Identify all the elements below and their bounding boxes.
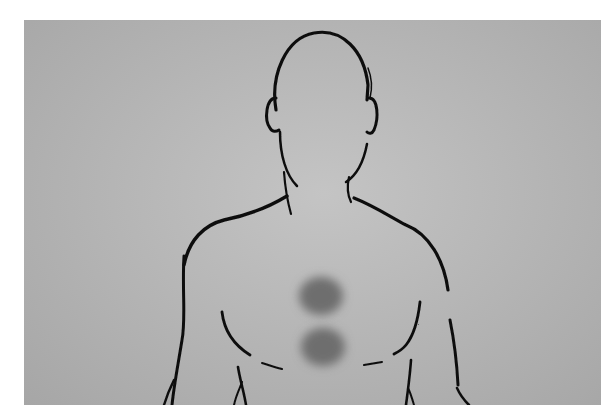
upper-chest-spot bbox=[299, 277, 343, 315]
illustration-frame bbox=[24, 20, 601, 405]
right-arm-lower bbox=[457, 388, 469, 405]
left-jaw bbox=[280, 132, 297, 186]
right-ear bbox=[367, 98, 377, 133]
right-pectoral bbox=[394, 302, 420, 354]
right-shoulder bbox=[354, 198, 448, 290]
left-ear bbox=[267, 98, 279, 131]
lower-chest-spot bbox=[301, 328, 345, 366]
left-torso bbox=[238, 367, 246, 405]
head-outline bbox=[275, 32, 368, 110]
left-pectoral bbox=[222, 312, 250, 355]
torso-illustration bbox=[24, 20, 601, 405]
right-arm-outer bbox=[450, 320, 458, 385]
left-shoulder bbox=[184, 196, 287, 265]
right-torso bbox=[406, 360, 411, 405]
chest-spots bbox=[299, 277, 345, 366]
